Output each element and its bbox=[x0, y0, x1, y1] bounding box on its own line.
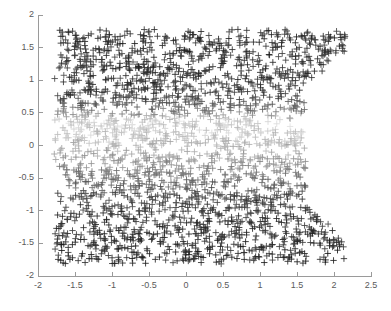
scatter-point bbox=[144, 69, 150, 75]
scatter-point bbox=[198, 80, 204, 86]
scatter-point bbox=[107, 59, 113, 65]
scatter-point bbox=[210, 63, 216, 69]
scatter-point bbox=[262, 66, 268, 72]
scatter-point bbox=[223, 195, 229, 201]
scatter-point bbox=[120, 181, 126, 187]
scatter-point bbox=[148, 39, 154, 45]
scatter-point bbox=[292, 250, 298, 256]
scatter-point bbox=[241, 140, 247, 146]
scatter-point bbox=[136, 111, 142, 117]
scatter-point bbox=[284, 71, 290, 77]
scatter-point bbox=[167, 138, 173, 144]
scatter-point bbox=[166, 100, 172, 106]
scatter-point bbox=[130, 132, 136, 138]
scatter-point bbox=[163, 113, 169, 119]
scatter-point bbox=[65, 47, 71, 53]
scatter-point bbox=[330, 257, 336, 263]
scatter-point bbox=[268, 113, 274, 119]
scatter-point bbox=[325, 221, 331, 227]
scatter-point bbox=[162, 51, 168, 57]
scatter-point bbox=[166, 153, 172, 159]
scatter-point bbox=[282, 224, 288, 230]
scatter-point bbox=[302, 165, 308, 171]
scatter-point bbox=[242, 76, 248, 82]
y-tick bbox=[38, 243, 43, 244]
scatter-point bbox=[297, 174, 303, 180]
scatter-point bbox=[232, 159, 238, 165]
scatter-point bbox=[54, 92, 60, 98]
x-tick bbox=[186, 272, 187, 277]
scatter-point bbox=[277, 201, 283, 207]
scatter-point bbox=[179, 226, 185, 232]
scatter-point bbox=[259, 171, 265, 177]
y-tick-label: 0.5 bbox=[0, 108, 34, 117]
scatter-point bbox=[266, 94, 272, 100]
scatter-point bbox=[243, 39, 249, 45]
scatter-point bbox=[330, 236, 336, 242]
scatter-point bbox=[89, 192, 95, 198]
scatter-point bbox=[163, 157, 169, 163]
scatter-point bbox=[240, 151, 246, 157]
scatter-point bbox=[201, 238, 207, 244]
scatter-point bbox=[299, 188, 305, 194]
scatter-point bbox=[276, 243, 282, 249]
scatter-point bbox=[281, 106, 287, 112]
scatter-point bbox=[65, 135, 71, 141]
scatter-point bbox=[282, 143, 288, 149]
y-tick-label: -2 bbox=[0, 271, 34, 280]
scatter-point bbox=[87, 68, 93, 74]
scatter-point bbox=[136, 193, 142, 199]
scatter-point bbox=[220, 84, 226, 90]
y-tick-label: -0.5 bbox=[0, 173, 34, 182]
scatter-point bbox=[237, 166, 243, 172]
scatter-point bbox=[114, 246, 120, 252]
scatter-point bbox=[190, 58, 196, 64]
scatter-point bbox=[196, 164, 202, 170]
scatter-point bbox=[269, 101, 275, 107]
scatter-point bbox=[252, 134, 258, 140]
scatter-point bbox=[122, 244, 128, 250]
scatter-point bbox=[299, 59, 305, 65]
y-tick-label: 0 bbox=[0, 141, 34, 150]
scatter-point bbox=[284, 220, 290, 226]
scatter-point bbox=[212, 76, 218, 82]
scatter-point bbox=[218, 106, 224, 112]
scatter-point bbox=[263, 63, 269, 69]
scatter-point bbox=[296, 87, 302, 93]
y-tick bbox=[38, 276, 43, 277]
scatter-point bbox=[225, 74, 231, 80]
scatter-point bbox=[63, 114, 69, 120]
scatter-point bbox=[250, 39, 256, 45]
scatter-point bbox=[78, 51, 84, 57]
scatter-point bbox=[129, 199, 135, 205]
scatter-point bbox=[333, 28, 339, 34]
scatter-point bbox=[171, 213, 177, 219]
scatter-point bbox=[57, 198, 63, 204]
scatter-point bbox=[260, 200, 266, 206]
scatter-point bbox=[174, 241, 180, 247]
scatter-point bbox=[307, 239, 313, 245]
scatter-point bbox=[303, 37, 309, 43]
scatter-point bbox=[58, 193, 64, 199]
scatter-point bbox=[179, 234, 185, 240]
scatter-point bbox=[188, 165, 194, 171]
scatter-point bbox=[57, 64, 63, 70]
scatter-point bbox=[245, 188, 251, 194]
scatter-point bbox=[161, 194, 167, 200]
scatter-point bbox=[157, 183, 163, 189]
scatter-point bbox=[268, 186, 274, 192]
scatter-point bbox=[88, 132, 94, 138]
scatter-point bbox=[265, 118, 271, 124]
scatter-point bbox=[228, 76, 234, 82]
scatter-point bbox=[231, 241, 237, 247]
scatter-point bbox=[102, 160, 108, 166]
scatter-point bbox=[205, 52, 211, 58]
scatter-point bbox=[127, 173, 133, 179]
scatter-point bbox=[244, 211, 250, 217]
scatter-point bbox=[122, 125, 128, 131]
x-tick-label: -1.5 bbox=[55, 281, 95, 290]
scatter-point bbox=[231, 89, 237, 95]
y-tick-label: -1.5 bbox=[0, 238, 34, 247]
scatter-point bbox=[123, 224, 129, 230]
scatter-point bbox=[111, 238, 117, 244]
